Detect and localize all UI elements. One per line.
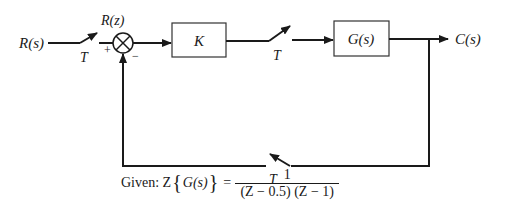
plus-sign: + [104, 43, 111, 57]
numerator: 1 [284, 168, 291, 183]
plant-label: G(s) [348, 31, 375, 48]
right-brace: } [209, 171, 219, 194]
forward-sampler-label: T [273, 48, 282, 63]
input-sampler-label: T [80, 50, 89, 65]
given-operand: G(s) [183, 175, 208, 191]
input-label: R(s) [18, 35, 44, 52]
minus-sign: − [132, 49, 139, 63]
given-prefix: Given: Z [121, 175, 171, 191]
sampled-signal-label: R(z) [100, 13, 125, 29]
denominator: (Z − 0.5) (Z − 1) [240, 184, 334, 199]
given-equation-text: Given: Z { G(s) } = 1 (Z − 0.5) (Z − 1) [121, 166, 339, 200]
fraction: 1 (Z − 0.5) (Z − 1) [235, 168, 339, 199]
left-brace: { [172, 171, 182, 194]
output-label: C(s) [455, 31, 481, 48]
forward-sampler-switch [226, 26, 290, 41]
summing-junction [113, 33, 133, 53]
input-sampler-switch [48, 33, 97, 43]
equals-sign: = [223, 175, 231, 191]
controller-label: K [193, 33, 205, 49]
